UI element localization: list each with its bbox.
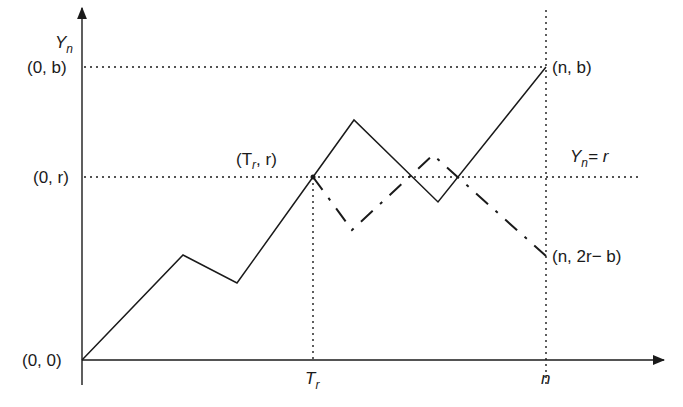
label-reflected-end: (n, 2r− b) (552, 247, 621, 266)
label-end-point: (n, b) (552, 58, 592, 77)
reflected-path (313, 155, 546, 256)
y-axis-label: Yn (55, 33, 73, 56)
label-origin: (0, 0) (22, 351, 62, 370)
label-hit-point: (Tr, r) (236, 150, 277, 172)
x-tick-n: n (541, 369, 550, 388)
label-zero-b: (0, b) (27, 58, 67, 77)
hit-point-marker (311, 175, 316, 180)
reflection-diagram: Yn (0, b) (0, r) (0, 0) (Tr, r) (n, b) (… (0, 0, 683, 407)
original-path (82, 67, 546, 360)
x-tick-tr: Tr (305, 369, 320, 392)
label-level-line: Yn= r (570, 147, 610, 170)
label-zero-r: (0, r) (33, 168, 69, 187)
